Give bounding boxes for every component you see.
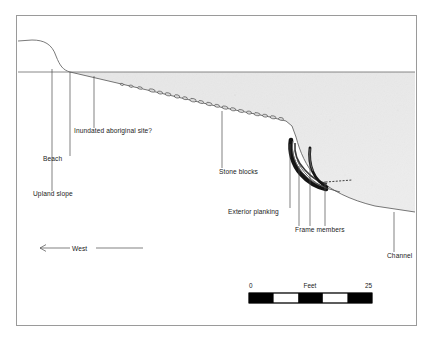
label-channel: Channel: [387, 252, 413, 259]
cross-section-svg: Upland slope Beach Inundated aboriginal …: [0, 0, 434, 344]
scale-segment-1: [249, 293, 274, 303]
scale-segment-3: [298, 293, 323, 303]
cross-section-figure: Upland slope Beach Inundated aboriginal …: [0, 0, 434, 344]
scale-segment-5: [347, 293, 372, 303]
label-upland-slope: Upland slope: [33, 190, 73, 198]
label-inundated-aboriginal-site: Inundated aboriginal site?: [74, 127, 152, 135]
scale-min-label: 0: [249, 282, 253, 289]
scale-max-label: 25: [365, 282, 373, 289]
label-frame-members: Frame members: [295, 226, 345, 233]
label-west: West: [72, 245, 87, 252]
label-exterior-planking: Exterior planking: [228, 208, 279, 216]
label-beach: Beach: [43, 155, 62, 162]
scale-unit-label: Feet: [304, 282, 317, 289]
label-stone-blocks: Stone blocks: [219, 168, 259, 175]
